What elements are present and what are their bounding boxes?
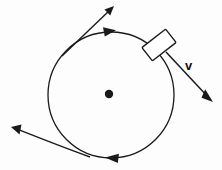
center-dot [105,90,113,98]
block [142,29,176,61]
diagram-canvas: v [0,0,222,170]
direction-arrowhead-bottom [105,154,119,163]
tangent-line-bottom-left [16,129,90,157]
circular-motion-diagram: v [0,0,222,170]
tangent-arrowhead-bottom-left [11,125,22,135]
velocity-label: v [185,58,193,73]
tangent-arrow-bottom-left [11,125,90,158]
